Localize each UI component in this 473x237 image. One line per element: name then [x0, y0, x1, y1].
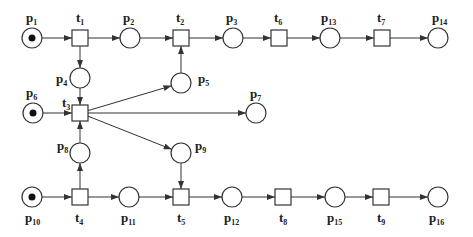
t1-label: t1 [76, 10, 84, 27]
p12-label-main: p [224, 210, 231, 225]
arc-t3-p9 [88, 116, 172, 149]
place-circle [222, 187, 242, 207]
place-circle [320, 28, 340, 48]
token-icon [29, 35, 36, 42]
p5-label: p5 [198, 71, 209, 88]
transition-t9 [373, 189, 389, 205]
petri-net-diagram: p1p2p3p4p5p6p7p8p9p10p11p12p13p14p15p16t… [0, 0, 473, 237]
place-p8 [70, 143, 90, 163]
p10-label-main: p [25, 210, 32, 225]
place-circle [120, 28, 140, 48]
place-circle [428, 187, 448, 207]
transition-t7 [374, 30, 390, 46]
p2-label-sub: 2 [130, 18, 134, 27]
place-p10 [22, 187, 42, 207]
place-p4 [70, 68, 90, 88]
p15-label: p15 [327, 210, 342, 227]
transition-box [72, 105, 88, 121]
p15-label-sub: 15 [334, 218, 342, 227]
transition-box [275, 189, 291, 205]
transition-box [374, 30, 390, 46]
p13-label: p13 [321, 10, 336, 27]
transition-t3 [72, 105, 88, 121]
transition-box [373, 189, 389, 205]
place-p9 [171, 143, 191, 163]
transition-t4 [72, 189, 88, 205]
p7-label: p7 [250, 86, 261, 103]
transition-t5 [173, 189, 189, 205]
p1-label-main: p [26, 10, 33, 25]
place-circle [325, 187, 345, 207]
p1-label-sub: 1 [33, 18, 37, 27]
p5-label-main: p [198, 71, 205, 86]
place-circle [70, 143, 90, 163]
place-p7 [246, 103, 266, 123]
place-circle [246, 103, 266, 123]
place-p6 [23, 103, 43, 123]
place-p2 [120, 28, 140, 48]
p7-label-sub: 7 [257, 94, 261, 103]
p9-label-sub: 9 [202, 146, 206, 155]
p10-label: p10 [25, 210, 40, 227]
t4-label-sub: 4 [79, 218, 83, 227]
t8-label-sub: 8 [283, 218, 287, 227]
p12-label-sub: 12 [231, 218, 239, 227]
p2-label: p2 [123, 10, 134, 27]
t9-label-sub: 9 [381, 218, 385, 227]
p6-label: p6 [26, 85, 37, 102]
arc-t3-p5 [88, 86, 171, 111]
p11-label-sub: 11 [128, 218, 136, 227]
p14-label: p14 [432, 10, 447, 27]
transition-t8 [275, 189, 291, 205]
p8-label: p8 [57, 138, 68, 155]
nodes-layer [22, 28, 448, 207]
t1-label-sub: 1 [80, 18, 84, 27]
t8-label: t8 [279, 210, 287, 227]
p13-label-sub: 13 [328, 18, 336, 27]
place-circle [70, 68, 90, 88]
t2-label-sub: 2 [180, 18, 184, 27]
transition-box [173, 189, 189, 205]
p4-label-main: p [56, 71, 63, 86]
t3-label-sub: 3 [66, 103, 70, 112]
p12-label: p12 [224, 210, 239, 227]
t6-label: t6 [274, 10, 282, 27]
transition-box [72, 189, 88, 205]
transition-t2 [173, 30, 189, 46]
transition-box [72, 30, 88, 46]
t9-label: t9 [377, 210, 385, 227]
transition-box [271, 30, 287, 46]
place-p3 [223, 28, 243, 48]
p14-label-sub: 14 [439, 18, 447, 27]
p2-label-main: p [123, 10, 130, 25]
p16-label-sub: 16 [436, 218, 444, 227]
p6-label-main: p [26, 85, 33, 100]
place-circle [428, 28, 448, 48]
p4-label-sub: 4 [63, 79, 67, 88]
transition-box [173, 30, 189, 46]
p1-label: p1 [26, 10, 37, 27]
p14-label-main: p [432, 10, 439, 25]
p16-label-main: p [429, 210, 436, 225]
arcs-layer [42, 38, 428, 197]
place-circle [171, 143, 191, 163]
p6-label-sub: 6 [33, 93, 37, 102]
t3-label: t3 [62, 95, 70, 112]
p11-label-main: p [121, 210, 128, 225]
place-p11 [119, 187, 139, 207]
p9-label-main: p [195, 138, 202, 153]
transition-t1 [72, 30, 88, 46]
place-p15 [325, 187, 345, 207]
place-p12 [222, 187, 242, 207]
p3-label: p3 [226, 10, 237, 27]
p15-label-main: p [327, 210, 334, 225]
token-icon [30, 110, 37, 117]
place-p14 [428, 28, 448, 48]
p8-label-sub: 8 [64, 146, 68, 155]
place-circle [171, 73, 191, 93]
t6-label-sub: 6 [278, 18, 282, 27]
t5-label-sub: 5 [181, 218, 185, 227]
p10-label-sub: 10 [32, 218, 40, 227]
p16-label: p16 [429, 210, 444, 227]
place-p5 [171, 73, 191, 93]
